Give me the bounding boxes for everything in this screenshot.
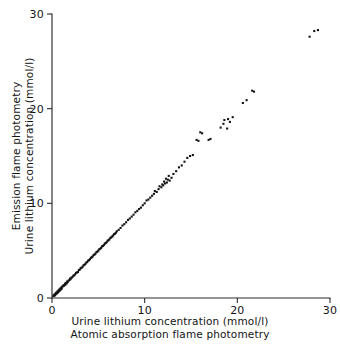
data-point [77,271,79,273]
data-point [189,155,191,157]
data-point [158,188,160,190]
y-axis-title-line1: Emission flame photometry [10,82,22,231]
data-point [163,181,165,183]
data-point [253,91,255,93]
data-point [170,177,172,179]
y-tick-label: 30 [30,8,44,21]
scatter-plot-figure: 0102030 0102030 Urine lithium concentrat… [0,0,340,344]
data-points-layer [52,29,319,297]
data-point [242,102,244,104]
data-point [201,132,203,134]
data-point [116,230,118,232]
data-point [186,157,188,159]
x-axis-title-line1: Urine lithium concentration (mmol/l) [71,315,268,327]
x-tick-label: 30 [323,304,337,317]
data-point [229,121,231,123]
y-axis-title-group: Emission flame photometry Urine lithium … [10,57,35,254]
data-point [149,197,151,199]
x-tick-label: 0 [48,304,55,317]
data-point [168,175,170,177]
data-point [160,186,162,188]
data-point [196,139,198,141]
data-point [313,30,315,32]
data-point [142,204,144,206]
data-point [227,118,229,120]
data-point [251,90,253,92]
data-point [153,193,155,195]
data-point [134,211,136,213]
data-point [178,166,180,168]
data-point [61,287,63,289]
data-point [192,154,194,156]
data-point [226,128,228,130]
data-point [167,179,169,181]
data-point [181,164,183,166]
data-point [147,199,149,201]
plot-canvas: 0102030 0102030 Urine lithium concentrat… [0,0,340,344]
data-point [246,99,248,101]
data-point [208,139,210,141]
data-point [144,202,146,204]
plot-axes: 0102030 0102030 [30,8,338,317]
data-point [209,138,211,140]
data-point [164,182,166,184]
data-point [199,131,201,133]
data-point [138,208,140,210]
data-point [127,219,129,221]
data-point [309,36,311,38]
data-point [121,225,123,227]
data-point [131,216,133,218]
data-point [232,116,234,118]
data-point [169,180,171,182]
data-point [154,190,156,192]
data-point [140,207,142,209]
y-tick-label: 0 [37,292,44,305]
data-point [197,140,199,142]
data-point [158,185,160,187]
data-point [183,161,185,163]
data-point [165,178,167,180]
data-point [125,221,127,223]
data-point [145,199,147,201]
data-point [136,210,138,212]
data-point [166,181,168,183]
y-axis-title-line2: Urine lithium concentration (mmol/l) [23,57,35,254]
data-point [172,173,174,175]
data-point [162,184,164,186]
data-point [317,29,319,31]
data-point [129,217,131,219]
data-point [123,223,125,225]
data-point [222,123,224,125]
data-point [120,227,122,229]
data-point [118,229,120,231]
data-point [223,119,225,121]
data-point [220,127,222,129]
data-point [156,191,158,193]
data-point [151,195,153,197]
x-axis-title-line2: Atomic absorption flame photometry [70,328,269,340]
data-point [175,170,177,172]
x-axis-title-group: Urine lithium concentration (mmol/l) Ato… [70,315,269,340]
data-point [133,214,135,216]
